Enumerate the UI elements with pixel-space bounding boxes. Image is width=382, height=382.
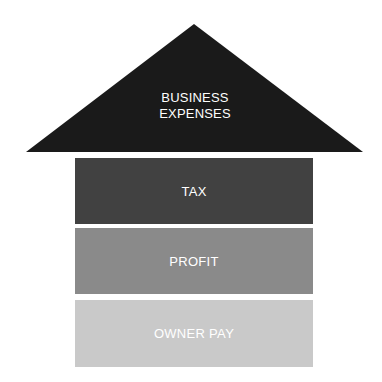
block-owner-pay-label: OWNER PAY [154, 326, 234, 341]
block-owner-pay: OWNER PAY [75, 300, 313, 367]
block-profit: PROFIT [75, 228, 313, 294]
block-tax: TAX [75, 158, 313, 224]
roof-triangle [0, 0, 382, 160]
roof-label-line2: EXPENSES [100, 106, 290, 122]
block-tax-label: TAX [181, 184, 206, 199]
roof-label: BUSINESS EXPENSES [100, 90, 290, 122]
roof-label-line1: BUSINESS [100, 90, 290, 106]
block-profit-label: PROFIT [169, 254, 218, 269]
